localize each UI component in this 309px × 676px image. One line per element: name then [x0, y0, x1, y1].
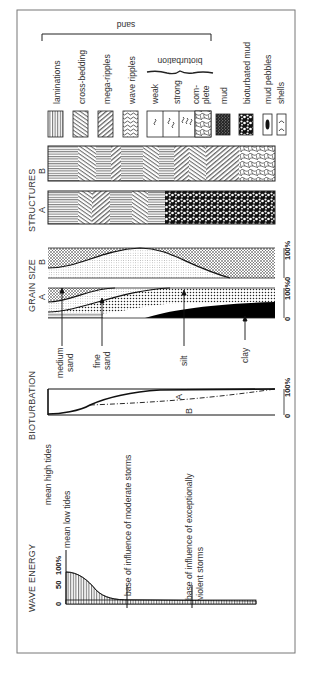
label-fine-sand-2: sand — [102, 351, 112, 370]
svg-text:0: 0 — [54, 602, 63, 606]
legend-box-mud — [216, 114, 230, 135]
legend-box-cross-bedding — [73, 111, 88, 137]
wave-energy-title: WAVE ENERGY — [27, 544, 37, 612]
legend-label-complete-1: com- — [191, 85, 201, 104]
legend-box-mega-ripples — [98, 111, 113, 137]
legend-box-shells — [277, 114, 286, 135]
legend-label-shells: shells — [276, 82, 286, 104]
legend-label-wave-ripples: wave ripples — [127, 56, 137, 105]
structures-column-b — [48, 146, 275, 181]
legend-box-bioturbation-group — [147, 111, 211, 137]
label-medium-sand-2: sand — [65, 353, 75, 372]
grain-size-column-a — [48, 288, 275, 318]
legend-box-laminations — [48, 111, 63, 137]
legend-box-bioturbated-mud — [239, 114, 253, 135]
legend-label-weak: weak — [150, 83, 160, 105]
structures-col-a-label: A — [37, 207, 47, 213]
structures-column-a — [48, 191, 275, 224]
label-medium-sand-1: medium — [55, 347, 65, 378]
complete-bioturbation-icon — [195, 111, 211, 137]
grain-size-title: GRAIN SIZE — [27, 259, 37, 312]
legend-group-label: sand — [116, 20, 135, 30]
curve-a-label: A — [174, 394, 184, 400]
annotation-mean-low-tides: mean low tides — [62, 491, 72, 548]
annotation-moderate-storms: base of influence of moderate storms — [123, 455, 133, 596]
legend-box-mud-pebbles — [263, 114, 272, 135]
legend-label-complete-2: plete — [201, 85, 211, 104]
structures-col-b-label: B — [37, 168, 47, 174]
legend-box-wave-ripples — [123, 111, 138, 137]
grain-size-col-a-label: A — [37, 294, 47, 300]
bioturbation-group-label: bioturbation — [157, 56, 202, 66]
annotation-violent-storms-2: violent storms — [195, 547, 205, 600]
svg-text:0: 0 — [283, 277, 292, 281]
legend-label-bioturbated-mud: bioturbated mud — [242, 42, 252, 104]
legend-label-mud: mud — [219, 87, 229, 104]
svg-text:0: 0 — [283, 317, 292, 321]
annotation-violent-storms-1: base of influence of exceptionally — [184, 473, 194, 600]
facies-diagram: sand bioturbation laminat — [0, 0, 309, 676]
svg-text:100%: 100% — [54, 555, 63, 575]
legend-label-mega-ripples: mega-ripples — [102, 54, 112, 104]
legend-label-mud-pebbles: mud pebbles — [263, 55, 273, 104]
svg-text:100%: 100% — [283, 240, 292, 260]
bioturbation-title: BIOTURBATION — [27, 371, 37, 440]
svg-text:50: 50 — [54, 581, 63, 589]
curve-b-label: B — [184, 408, 194, 414]
legend-label-cross-bedding: cross-bedding — [77, 50, 87, 104]
grain-size-column-b — [48, 248, 275, 278]
svg-text:100%: 100% — [283, 280, 292, 300]
legend-label-strong: strong — [172, 80, 182, 104]
annotation-mean-high-tides: mean high tides — [43, 444, 53, 505]
svg-text:100%: 100% — [283, 377, 292, 397]
legend-label-laminations: laminations — [52, 61, 62, 104]
structures-title: STRUCTURES — [27, 168, 37, 232]
label-clay: clay — [240, 347, 250, 363]
label-fine-sand-1: fine — [92, 354, 102, 368]
label-silt: silt — [179, 355, 189, 366]
svg-text:0: 0 — [283, 414, 292, 418]
grain-size-col-b-label: B — [37, 259, 47, 265]
